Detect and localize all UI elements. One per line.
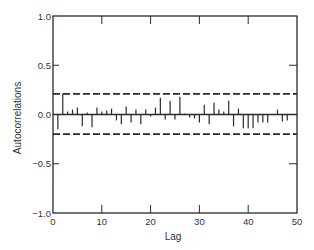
y-tick-label: −0.5 — [32, 158, 51, 169]
y-tick-label: 1.0 — [38, 11, 51, 22]
x-axis-label: Lag — [165, 231, 182, 242]
y-tick-label: 0.5 — [38, 60, 51, 71]
x-tick-label: 50 — [292, 216, 303, 227]
x-tick-label: 0 — [50, 216, 55, 227]
x-tick-label: 10 — [97, 216, 108, 227]
autocorrelation-stems — [58, 94, 287, 129]
x-tick-label: 40 — [243, 216, 254, 227]
x-tick-label: 30 — [194, 216, 205, 227]
x-axis-ticks: 01020304050 — [50, 16, 302, 227]
y-axis-label: Autocorrelations — [12, 82, 23, 154]
y-tick-label: −1.0 — [32, 208, 51, 219]
y-tick-label: 0.0 — [38, 109, 51, 120]
autocorrelation-chart: 01020304050 −1.0−0.50.00.51.0 Lag Autoco… — [0, 0, 314, 250]
x-tick-label: 20 — [145, 216, 156, 227]
